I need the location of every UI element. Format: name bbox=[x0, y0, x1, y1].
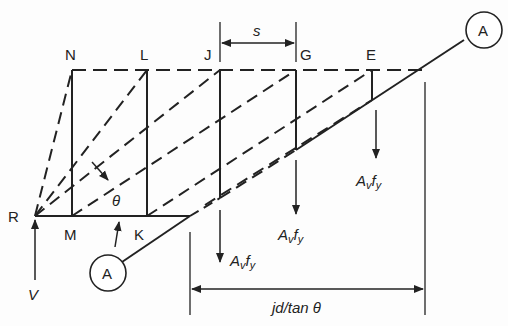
reaction-arrow-K bbox=[115, 222, 119, 247]
section-label-lower: A bbox=[102, 265, 112, 282]
angle-label: θ bbox=[112, 192, 120, 209]
section-line bbox=[122, 216, 190, 262]
svg-text:Avfy: Avfy bbox=[229, 252, 257, 271]
force-label-G: Avfy bbox=[277, 226, 305, 245]
node-K: K bbox=[134, 226, 144, 243]
truss-shear-diagram: A A N L J G E R M K s θ V Avfy Avfy Avfy… bbox=[0, 0, 508, 326]
node-J: J bbox=[204, 46, 212, 63]
node-R: R bbox=[8, 208, 19, 225]
section-label-upper: A bbox=[478, 22, 488, 39]
shear-label: V bbox=[28, 286, 40, 303]
strut-MG bbox=[72, 70, 296, 216]
section-line-upper bbox=[296, 40, 464, 150]
strut-RL bbox=[35, 70, 147, 216]
node-L: L bbox=[140, 46, 148, 63]
node-N: N bbox=[65, 46, 76, 63]
force-label-E: Avfy bbox=[355, 172, 383, 191]
strut-lower2 bbox=[220, 150, 296, 198]
node-E: E bbox=[366, 46, 376, 63]
diagram-canvas: A A N L J G E R M K s θ V Avfy Avfy Avfy… bbox=[0, 0, 508, 326]
node-G: G bbox=[300, 46, 312, 63]
strut-RN bbox=[35, 70, 72, 216]
projection-label: jd/tan θ bbox=[270, 299, 321, 316]
section-line-mid bbox=[190, 198, 220, 216]
node-M: M bbox=[64, 226, 77, 243]
spacing-label: s bbox=[253, 22, 261, 39]
svg-text:Avfy: Avfy bbox=[277, 226, 305, 245]
strut-KE bbox=[147, 70, 372, 216]
strut-RJ bbox=[35, 70, 220, 216]
force-label-J: Avfy bbox=[229, 252, 257, 271]
svg-text:Avfy: Avfy bbox=[355, 172, 383, 191]
